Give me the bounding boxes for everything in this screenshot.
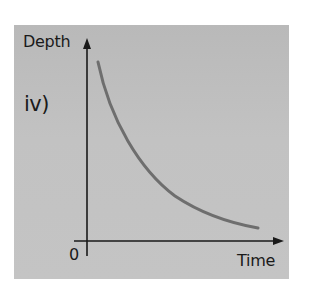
origin-label: 0 bbox=[69, 247, 79, 263]
x-axis-arrow-icon bbox=[273, 237, 284, 245]
panel-id-label: iv) bbox=[24, 94, 49, 115]
depth-curve bbox=[98, 62, 258, 228]
y-axis-arrow-icon bbox=[83, 38, 91, 49]
y-axis-label: Depth bbox=[23, 34, 70, 50]
x-axis-label: Time bbox=[237, 253, 275, 269]
